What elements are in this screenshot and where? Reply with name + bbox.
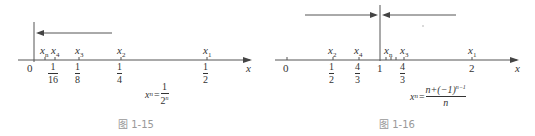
point-label-xn: xn	[384, 45, 392, 59]
point-label-x4: x4	[354, 45, 362, 59]
value-1-8: 18	[75, 62, 80, 85]
value-2: 2	[469, 63, 475, 74]
value-4-3-x3: 43	[400, 62, 405, 85]
value-4-3-x4: 43	[355, 62, 360, 85]
figure-1-16: 0 1 x x2 x4 xn x3 x1 12 43 43 2 xn = n+(…	[265, 0, 535, 136]
limit-label: 1	[377, 63, 383, 74]
formula-fig16: xn = n+(−1)n−1 n	[410, 84, 466, 108]
point-label-xn: xn	[40, 45, 48, 59]
point-label-x1: x1	[203, 45, 211, 59]
point-label-x4: x4	[51, 45, 59, 59]
value-1-16: 116	[48, 62, 58, 85]
axis-label-x: x	[515, 63, 520, 74]
axis-label-x: x	[246, 63, 251, 74]
origin-label: 0	[283, 63, 289, 74]
point-label-x3: x3	[400, 45, 408, 59]
point-label-x1: x1	[468, 45, 476, 59]
figure-caption: 图 1-15	[118, 116, 154, 131]
figure-caption: 图 1-16	[379, 116, 415, 131]
point-label-x2: x2	[117, 45, 125, 59]
formula-fig15: xn = 1 2n	[145, 82, 169, 106]
figure-1-15: 0 x xn x4 x3 x2 x1 116 18 14 12 xn = 1 2…	[0, 0, 268, 136]
value-1-2: 12	[329, 62, 334, 85]
point-label-x3: x3	[75, 45, 83, 59]
value-1-4: 14	[117, 62, 122, 85]
point-label-x2: x2	[328, 45, 336, 59]
origin-label: 0	[27, 63, 33, 74]
value-1-2: 12	[203, 62, 208, 85]
